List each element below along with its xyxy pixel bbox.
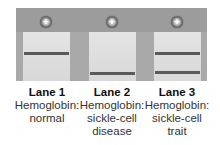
lane-caption-line: trait <box>142 125 212 138</box>
lane-caption-line: sickle-cell <box>142 112 212 125</box>
positive-electrode-icon-lane-1: + <box>40 16 52 28</box>
lane-title: Lane 2 <box>77 86 147 99</box>
gel-lane-3 <box>154 32 201 81</box>
positive-electrode-icon-lane-2: + <box>106 16 118 28</box>
band-lower <box>90 72 135 75</box>
lane-title: Lane 3 <box>142 86 212 99</box>
plus-icon: + <box>106 16 118 28</box>
band-upper <box>155 52 200 55</box>
lane-caption-line: sickle-cell <box>77 112 147 125</box>
lane-3-label: Lane 3 Hemoglobin: sickle-cell trait <box>142 86 212 138</box>
gel-lane-2 <box>89 32 136 81</box>
gel-frame: + + + <box>16 8 207 81</box>
lane-2-label: Lane 2 Hemoglobin: sickle-cell disease <box>77 86 147 138</box>
lane-caption-line: disease <box>77 125 147 138</box>
lane-caption-line: Hemoglobin: <box>12 99 82 112</box>
plus-icon: + <box>40 16 52 28</box>
band-upper <box>24 52 69 55</box>
gel-lane-1 <box>23 32 70 81</box>
lane-1-label: Lane 1 Hemoglobin: normal <box>12 86 82 125</box>
positive-electrode-icon-lane-3: + <box>171 16 183 28</box>
plus-icon: + <box>171 16 183 28</box>
band-lower <box>155 71 200 74</box>
lane-caption-line: Hemoglobin: <box>77 99 147 112</box>
lane-caption-line: Hemoglobin: <box>142 99 212 112</box>
lane-caption-line: normal <box>12 112 82 125</box>
lane-title: Lane 1 <box>12 86 82 99</box>
